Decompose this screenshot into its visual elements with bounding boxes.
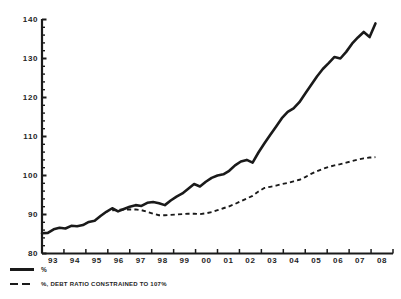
y-axis-tick-label: 80 xyxy=(12,250,38,258)
x-axis-tick-label: 97 xyxy=(131,257,151,265)
y-axis-tick-label: 110 xyxy=(12,133,38,141)
x-axis-tick-label: 07 xyxy=(350,257,370,265)
y-axis-labels: 1401301201101009080 xyxy=(8,0,38,299)
y-axis-tick-label: 140 xyxy=(12,16,38,24)
y-axis-tick-label: 120 xyxy=(12,94,38,102)
series-line-percent xyxy=(42,23,375,233)
x-axis-tick-label: 98 xyxy=(153,257,173,265)
x-axis-tick-label: 06 xyxy=(328,257,348,265)
legend-item-debt-ratio: %, DEBT RATIO CONSTRAINED TO 107% xyxy=(10,279,167,289)
y-axis-tick-label: 130 xyxy=(12,55,38,63)
series-line-debt-ratio-constrained xyxy=(112,157,375,215)
x-axis-tick-label: 99 xyxy=(175,257,195,265)
x-axis-tick-label: 08 xyxy=(372,257,392,265)
y-axis-tick-label: 90 xyxy=(12,211,38,219)
legend-solid-key xyxy=(10,264,34,274)
x-axis-tick-label: 03 xyxy=(262,257,282,265)
x-axis-tick-label: 05 xyxy=(306,257,326,265)
axis-lines xyxy=(42,19,393,254)
legend-label-percent: % xyxy=(41,266,47,273)
chart-container: 1401301201101009080 93949596979899000102… xyxy=(0,0,401,299)
x-axis-tick-label: 00 xyxy=(197,257,217,265)
x-axis-tick-label: 95 xyxy=(87,257,107,265)
legend-dashed-key xyxy=(10,279,34,289)
x-axis-tick-label: 96 xyxy=(109,257,129,265)
line-chart-plot xyxy=(0,0,401,299)
x-axis-tick-label: 04 xyxy=(284,257,304,265)
legend-item-percent: % xyxy=(10,264,47,274)
y-axis-tick-label: 100 xyxy=(12,172,38,180)
legend-label-debt-ratio: %, DEBT RATIO CONSTRAINED TO 107% xyxy=(41,281,167,287)
x-axis-tick-label: 01 xyxy=(218,257,238,265)
x-axis-tick-label: 02 xyxy=(240,257,260,265)
x-axis-tick-label: 94 xyxy=(65,257,85,265)
